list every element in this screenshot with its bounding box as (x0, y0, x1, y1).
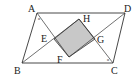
label-c: C (111, 65, 118, 76)
label-a: A (28, 3, 36, 14)
label-f: F (57, 54, 63, 65)
parallelogram-diagram: α α A D B C E F G H (0, 0, 140, 79)
angle-mark-a: α (38, 16, 40, 21)
angle-mark-c: α (107, 57, 109, 62)
label-h: H (83, 13, 90, 24)
label-g: G (97, 34, 104, 45)
shaded-quadrilateral-efgh (54, 19, 95, 57)
label-b: B (14, 65, 21, 76)
label-d: D (124, 3, 131, 14)
label-e: E (41, 33, 47, 44)
